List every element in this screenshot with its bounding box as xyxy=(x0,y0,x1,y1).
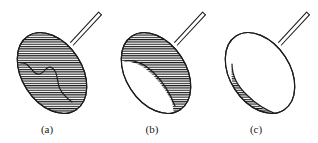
panel-b-caption: (b) xyxy=(146,123,159,136)
panel-c-caption: (c) xyxy=(250,123,263,136)
panel-a-caption: (a) xyxy=(41,123,54,136)
figure-container: (a) (b) xyxy=(0,0,318,143)
diagram-svg: (a) (b) xyxy=(0,0,318,143)
